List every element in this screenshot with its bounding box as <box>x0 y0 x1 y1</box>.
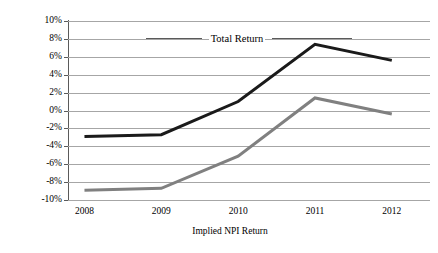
line-chart: 10%8%6%4%2%0%-2%-4%-6%-8%-10% Total Retu… <box>0 0 438 253</box>
y-axis-tick <box>64 146 68 147</box>
x-axis-title-text: Implied NPI Return <box>170 226 267 236</box>
y-axis-tick <box>64 200 68 201</box>
x-axis-tick-label: 2009 <box>152 206 171 217</box>
y-axis-tick <box>64 182 68 183</box>
series-line <box>84 44 391 136</box>
y-axis-tick <box>64 128 68 129</box>
series-container <box>68 21 430 200</box>
x-axis-title: Implied NPI Return <box>0 226 438 236</box>
y-axis-tick-label: -2% <box>2 123 62 133</box>
y-axis-tick-label: 4% <box>2 70 62 80</box>
y-axis-tick <box>64 75 68 76</box>
y-axis-tick-label: 6% <box>2 52 62 62</box>
y-axis-tick <box>64 93 68 94</box>
x-axis-tick-label: 2011 <box>306 206 325 217</box>
plot-area <box>68 21 430 200</box>
series-line <box>84 98 391 190</box>
x-axis-labels: 20082009201020112012 <box>68 206 430 222</box>
x-axis-tick-label: 2012 <box>382 206 401 217</box>
y-axis-tick-label: 2% <box>2 88 62 98</box>
y-axis-tick <box>64 39 68 40</box>
y-axis-tick-label: -10% <box>2 195 62 205</box>
y-axis-tick-label: -8% <box>2 177 62 187</box>
y-axis-labels: 10%8%6%4%2%0%-2%-4%-6%-8%-10% <box>0 0 62 253</box>
y-axis-tick-label: 8% <box>2 34 62 44</box>
y-axis-tick <box>64 111 68 112</box>
y-axis-tick-label: -4% <box>2 141 62 151</box>
gridline <box>68 200 430 201</box>
y-axis-tick <box>64 21 68 22</box>
y-axis-tick-label: 0% <box>2 106 62 116</box>
y-axis-tick-label: 10% <box>2 16 62 26</box>
x-axis-tick-label: 2008 <box>75 206 94 217</box>
x-axis-tick-label: 2010 <box>229 206 248 217</box>
y-axis-tick-label: -6% <box>2 159 62 169</box>
y-axis-tick <box>64 164 68 165</box>
y-axis-tick <box>64 57 68 58</box>
